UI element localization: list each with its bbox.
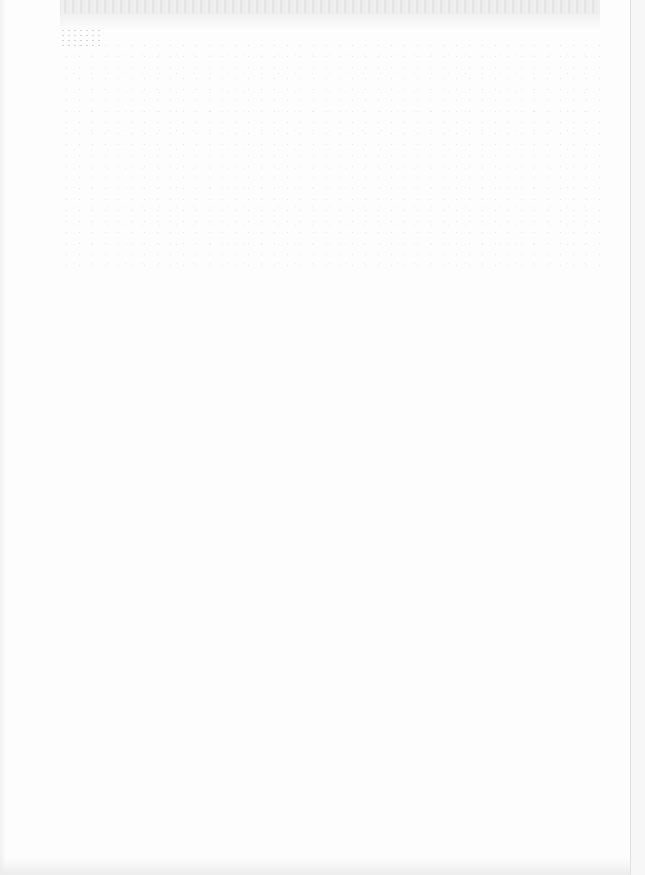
page-right-margin bbox=[631, 0, 645, 875]
page-bottom-edge bbox=[0, 858, 630, 875]
scanned-page bbox=[0, 0, 645, 875]
scan-top-band bbox=[60, 0, 600, 14]
page-left-edge bbox=[0, 0, 6, 875]
faded-text-block bbox=[60, 40, 600, 270]
scan-top-band-fade bbox=[60, 14, 600, 30]
